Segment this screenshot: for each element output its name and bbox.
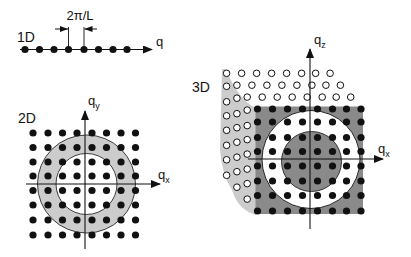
panel-1d: 1D 2π/L q xyxy=(17,8,163,53)
lattice-point xyxy=(103,172,110,179)
open-lattice-point xyxy=(234,95,241,102)
lattice-point xyxy=(284,134,291,141)
lattice-point xyxy=(88,216,95,223)
lattice-point xyxy=(314,177,321,184)
lattice-point xyxy=(73,201,80,208)
open-lattice-point xyxy=(234,124,241,131)
lattice-point xyxy=(299,207,306,214)
lattice-point xyxy=(103,231,110,238)
lattice-point xyxy=(254,134,261,141)
open-lattice-point xyxy=(238,70,245,77)
open-lattice-point xyxy=(234,139,241,146)
open-lattice-point xyxy=(259,94,266,101)
open-lattice-point xyxy=(223,99,230,106)
lattice-point xyxy=(117,231,124,238)
open-lattice-point xyxy=(249,82,256,89)
lattice-point xyxy=(343,192,350,199)
open-lattice-point xyxy=(253,70,260,77)
lattice-point xyxy=(29,201,36,208)
lattice-point xyxy=(357,192,364,199)
open-lattice-point xyxy=(274,94,281,101)
lattice-point xyxy=(59,172,66,179)
lattice-point xyxy=(299,105,306,112)
lattice-point xyxy=(343,134,350,141)
lattice-point xyxy=(329,118,336,125)
lattice-point xyxy=(343,162,350,169)
lattice-point xyxy=(29,187,36,194)
lattice-point xyxy=(284,118,291,125)
lattice-point xyxy=(73,216,80,223)
lattice-point xyxy=(59,187,66,194)
lattice-point xyxy=(357,148,364,155)
open-lattice-point xyxy=(312,70,319,77)
lattice-point xyxy=(88,129,95,136)
lattice-point xyxy=(254,177,261,184)
lattice-point xyxy=(59,129,66,136)
lattice-point xyxy=(59,231,66,238)
q-axis-label-1d: q xyxy=(156,34,163,49)
lattice-point xyxy=(314,207,321,214)
lattice-point xyxy=(284,192,291,199)
lattice-point xyxy=(44,187,51,194)
lattice-point xyxy=(88,158,95,165)
lattice-point xyxy=(314,192,321,199)
lattice-point xyxy=(357,162,364,169)
lattice-point xyxy=(73,158,80,165)
open-lattice-point xyxy=(268,70,275,77)
lattice-point xyxy=(254,207,261,214)
lattice-point xyxy=(132,216,139,223)
lattice-point xyxy=(88,187,95,194)
lattice-point xyxy=(357,207,364,214)
lattice-point xyxy=(132,172,139,179)
lattice-point xyxy=(29,172,36,179)
open-lattice-point xyxy=(264,82,271,89)
lattice-point xyxy=(44,158,51,165)
lattice-point xyxy=(299,118,306,125)
lattice-point xyxy=(269,162,276,169)
lattice-point xyxy=(132,129,139,136)
lattice-point xyxy=(29,158,36,165)
reciprocal-lattice-diagram: 1D 2π/L q 2D qx qy 3D qx qz xyxy=(0,0,411,257)
lattice-point xyxy=(329,192,336,199)
lattice-point xyxy=(65,46,72,53)
open-lattice-point xyxy=(234,110,241,117)
lattice-point xyxy=(44,231,51,238)
open-lattice-point xyxy=(244,196,251,203)
open-lattice-point xyxy=(327,70,334,77)
lattice-point xyxy=(329,105,336,112)
open-lattice-point xyxy=(289,94,296,101)
open-lattice-point xyxy=(283,70,290,77)
lattice-point xyxy=(103,187,110,194)
lattice-point xyxy=(284,148,291,155)
lattice-point xyxy=(299,192,306,199)
lattice-point xyxy=(299,134,306,141)
open-lattice-point xyxy=(244,151,251,158)
lattice-point xyxy=(117,144,124,151)
lattice-point xyxy=(254,192,261,199)
lattice-point xyxy=(132,144,139,151)
qz-axis-label-3d: qz xyxy=(314,32,326,50)
panel-2d: 2D qx qy xyxy=(18,93,170,249)
qx-axis-label-2d: qx xyxy=(158,167,170,185)
lattice-point xyxy=(269,105,276,112)
lattice-point xyxy=(314,105,321,112)
lattice-point xyxy=(29,231,36,238)
lattice-point xyxy=(73,129,80,136)
lattice-point xyxy=(343,148,350,155)
lattice-point xyxy=(357,177,364,184)
lattice-point xyxy=(103,144,110,151)
lattice-point xyxy=(329,134,336,141)
lattice-point xyxy=(269,118,276,125)
lattice-point xyxy=(88,201,95,208)
lattice-point xyxy=(109,46,116,53)
lattice-point xyxy=(269,207,276,214)
lattice-point xyxy=(284,177,291,184)
lattice-point xyxy=(284,105,291,112)
lattice-point xyxy=(117,201,124,208)
lattice-point xyxy=(357,105,364,112)
panel-3d-label: 3D xyxy=(192,79,210,95)
lattice-point xyxy=(314,148,321,155)
panel-2d-label: 2D xyxy=(18,110,36,126)
lattice-point xyxy=(132,158,139,165)
open-lattice-point xyxy=(298,70,305,77)
